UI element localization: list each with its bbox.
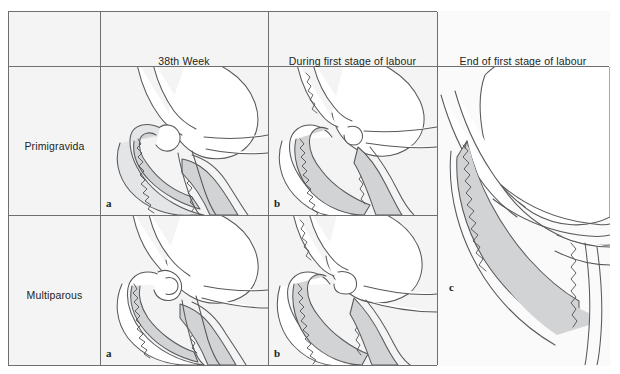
figure-table: 38th Week During first stage of labour E… bbox=[8, 11, 610, 366]
figure-root: 38th Week During first stage of labour E… bbox=[0, 0, 620, 374]
panel-letter-c: c bbox=[449, 281, 454, 293]
row-label-multiparous: Multiparous bbox=[9, 289, 100, 301]
header-col-during-first-stage: During first stage of labour bbox=[268, 55, 437, 67]
grid-hline-rows bbox=[9, 215, 437, 216]
panel-letter-1b: b bbox=[274, 197, 280, 209]
illustration-primigravida-38th-week: a bbox=[100, 67, 268, 215]
header-col-38th-week: 38th Week bbox=[100, 55, 268, 67]
panel-letter-1a: a bbox=[106, 197, 112, 209]
panel-letter-2b: b bbox=[274, 347, 280, 359]
illustration-multiparous-during-first-stage: b bbox=[268, 216, 437, 365]
illustration-primigravida-during-first-stage: b bbox=[268, 67, 437, 215]
header-col-end-first-stage: End of first stage of labour bbox=[437, 55, 609, 67]
row-label-primigravida: Primigravida bbox=[9, 140, 100, 152]
illustration-multiparous-38th-week: a bbox=[100, 216, 268, 365]
illustration-end-of-first-stage: c bbox=[437, 67, 610, 365]
panel-letter-2a: a bbox=[106, 347, 112, 359]
